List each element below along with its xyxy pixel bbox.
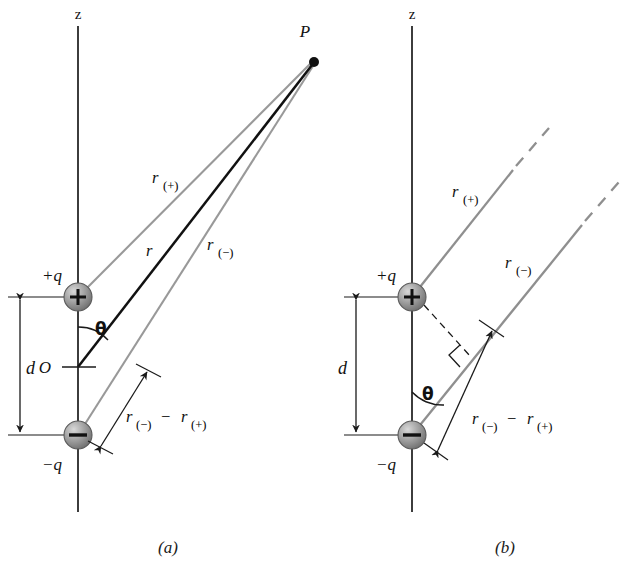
- difference-dimension-arrow-a: [101, 372, 147, 446]
- difference-sub2-a: (+): [191, 418, 206, 432]
- difference-label-a: r (−) − r (+): [126, 407, 206, 432]
- d-label-a: d: [26, 358, 36, 378]
- positive-charge-label-a: +q: [42, 266, 62, 285]
- difference-tick-upper-a: [136, 364, 161, 377]
- dipole-figure: z P r (+) r r (−) θ: [0, 0, 630, 570]
- theta-label-b: θ: [422, 384, 434, 404]
- ray-r-minus-base-b: r: [505, 253, 512, 272]
- ray-r-minus-a: [78, 66, 313, 435]
- difference-operator-b: −: [507, 409, 516, 428]
- ray-r-plus-sub-b: (+): [463, 193, 478, 207]
- ray-r-center-a: [78, 65, 312, 367]
- positive-charge-b: [398, 283, 426, 311]
- difference-sub2-b: (+): [537, 420, 552, 434]
- ray-r-plus-label-b: r (+): [452, 182, 478, 207]
- ray-r-plus-a: [78, 64, 310, 297]
- difference-tick-lower-a: [88, 441, 113, 454]
- ray-r-minus-sub-a: (−): [218, 246, 233, 260]
- negative-charge-label-a: −q: [42, 455, 62, 474]
- difference-sub1-a: (−): [136, 418, 151, 432]
- ray-r-plus-sub-a: (+): [163, 179, 178, 193]
- difference-tick-lower-b: [424, 443, 448, 460]
- ray-r-center-base-a: r: [146, 241, 153, 260]
- ray-r-minus-b: [412, 225, 582, 435]
- ray-r-minus-dashed-b: [585, 182, 619, 221]
- difference-sub1-b: (−): [482, 420, 497, 434]
- difference-tick-upper-b: [479, 320, 504, 337]
- negative-charge-a: [64, 421, 92, 449]
- z-axis-label-a: z: [75, 6, 82, 22]
- ray-r-minus-sub-b: (−): [516, 264, 531, 278]
- right-angle-marker-b: [449, 345, 460, 367]
- difference-operator-a: −: [161, 407, 170, 426]
- panel-a: z P r (+) r r (−) θ: [8, 6, 319, 557]
- ray-r-center-label-a: r: [146, 241, 153, 260]
- figure-canvas: z P r (+) r r (−) θ: [0, 0, 630, 570]
- ray-r-plus-base-b: r: [452, 182, 459, 201]
- difference-label-b: r (−) − r (+): [472, 409, 552, 434]
- d-label-b: d: [338, 358, 348, 378]
- theta-label-a: θ: [95, 319, 107, 339]
- positive-charge-label-b: +q: [376, 266, 396, 285]
- ray-r-plus-label-a: r (+): [152, 168, 178, 193]
- difference-base2-b: r: [527, 409, 534, 428]
- caption-a: (a): [158, 538, 178, 557]
- origin-label-a: O: [39, 358, 51, 377]
- negative-charge-b: [398, 421, 426, 449]
- difference-base1-b: r: [472, 409, 479, 428]
- ray-r-minus-base-a: r: [207, 235, 214, 254]
- perpendicular-dashed-b: [424, 305, 470, 356]
- caption-b: (b): [495, 538, 515, 557]
- ray-r-plus-b: [412, 170, 513, 297]
- point-p-marker: [309, 57, 319, 67]
- positive-charge-a: [64, 283, 92, 311]
- difference-base1-a: r: [126, 407, 133, 426]
- ray-r-plus-base-a: r: [152, 168, 159, 187]
- panel-b: z r (+) r (−) θ: [338, 6, 619, 557]
- negative-charge-label-b: −q: [376, 455, 396, 474]
- ray-r-plus-dashed-b: [516, 128, 549, 166]
- ray-r-minus-label-a: r (−): [207, 235, 233, 260]
- difference-base2-a: r: [181, 407, 188, 426]
- point-p-label: P: [299, 22, 310, 41]
- ray-r-minus-label-b: r (−): [505, 253, 531, 278]
- z-axis-label-b: z: [409, 6, 416, 22]
